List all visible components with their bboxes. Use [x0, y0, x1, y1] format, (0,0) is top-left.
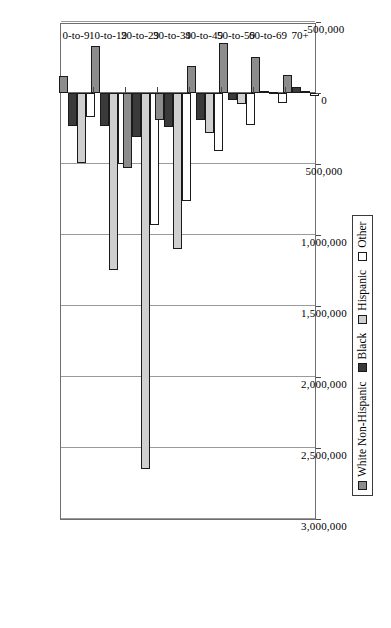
legend-swatch-icon: [358, 364, 367, 373]
bar-20-to-29-white-non-hispanic[interactable]: [123, 93, 132, 168]
bar-0-to-9-black[interactable]: [68, 93, 77, 126]
category-axis-tick: [285, 87, 286, 93]
bar-chart-figure: 3,000,0002,500,0002,000,0001,500,0001,00…: [0, 0, 391, 628]
legend-label: Other: [356, 222, 369, 248]
legend-entry[interactable]: Black: [356, 333, 369, 373]
value-axis-label: 1,000,000: [301, 236, 347, 248]
bar-70+-hispanic[interactable]: [301, 91, 310, 93]
bar-10-to-19-hispanic[interactable]: [109, 93, 118, 271]
legend-swatch-icon: [358, 252, 367, 261]
bar-40-to-49-hispanic[interactable]: [205, 93, 214, 133]
bar-30-to-39-black[interactable]: [164, 93, 173, 127]
bar-60-to-69-hispanic[interactable]: [269, 92, 278, 94]
category-axis-tick: [93, 87, 94, 93]
legend-swatch-icon: [358, 481, 367, 490]
bar-30-to-39-hispanic[interactable]: [173, 93, 182, 249]
gridline: [61, 234, 315, 235]
bar-40-to-49-other[interactable]: [214, 93, 223, 151]
category-axis-tick: [221, 87, 222, 93]
legend-label: White Non-Hispanic: [356, 382, 369, 478]
bar-10-to-19-white-non-hispanic[interactable]: [91, 46, 100, 93]
value-axis-label: 2,500,000: [301, 449, 347, 461]
bar-60-to-69-other[interactable]: [278, 93, 287, 103]
bar-50-to-59-black[interactable]: [228, 93, 237, 100]
bar-40-to-49-black[interactable]: [196, 93, 205, 120]
legend-entry[interactable]: Hispanic: [356, 270, 369, 324]
gridline: [61, 518, 315, 519]
chart-rotator: 3,000,0002,500,0002,000,0001,500,0001,00…: [0, 0, 391, 628]
gridline: [61, 305, 315, 306]
bar-20-to-29-black[interactable]: [132, 93, 141, 137]
gridline: [61, 447, 315, 448]
bar-50-to-59-white-non-hispanic[interactable]: [219, 43, 228, 93]
category-axis-tick: [253, 87, 254, 93]
value-axis-label: 3,000,000: [301, 520, 347, 532]
bar-50-to-59-other[interactable]: [246, 93, 255, 125]
value-axis-label: 1,500,000: [301, 307, 347, 319]
bar-30-to-39-white-non-hispanic[interactable]: [155, 93, 164, 120]
legend-entry[interactable]: White Non-Hispanic: [356, 382, 369, 491]
bar-70+-black[interactable]: [292, 87, 301, 93]
bar-20-to-29-hispanic[interactable]: [141, 93, 150, 469]
bar-60-to-69-black[interactable]: [260, 91, 269, 93]
bar-30-to-39-other[interactable]: [182, 93, 191, 201]
legend-label: Hispanic: [356, 270, 369, 311]
bar-0-to-9-white-non-hispanic[interactable]: [59, 76, 68, 93]
category-axis-tick: [189, 87, 190, 93]
value-axis-label: 0: [321, 94, 327, 106]
value-axis-label: 500,000: [305, 165, 342, 177]
gridline: [61, 376, 315, 377]
category-axis-tick: [125, 87, 126, 93]
category-axis-label: 70+: [265, 29, 335, 41]
plot-area: [60, 23, 316, 520]
bar-0-to-9-other[interactable]: [86, 93, 95, 117]
legend-swatch-icon: [358, 315, 367, 324]
bar-0-to-9-hispanic[interactable]: [77, 93, 86, 163]
legend-entry[interactable]: Other: [356, 222, 369, 261]
value-axis-label: 2,000,000: [301, 378, 347, 390]
gridline: [61, 21, 315, 22]
bar-10-to-19-black[interactable]: [100, 93, 109, 126]
chart-legend: White Non-HispanicBlackHispanicOther: [352, 215, 373, 496]
bar-50-to-59-hispanic[interactable]: [237, 93, 246, 104]
category-axis-tick: [157, 87, 158, 93]
legend-label: Black: [356, 333, 369, 360]
